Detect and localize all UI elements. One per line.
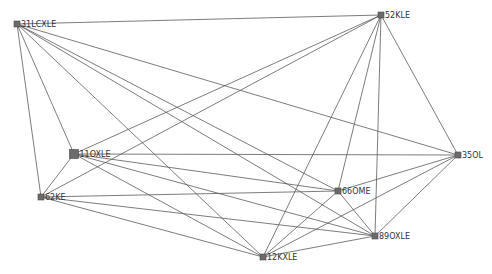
- edge-31LCXLE-12KXLE: [17, 24, 263, 257]
- edge-31LCXLE-89OXLE: [17, 24, 375, 236]
- node-square-icon[interactable]: [70, 150, 79, 159]
- edge-66OME-89OXLE: [338, 191, 375, 236]
- graph-node[interactable]: 89OXLE: [372, 232, 410, 241]
- edge-35OL-12KXLE: [263, 155, 458, 257]
- node-square-icon[interactable]: [38, 194, 44, 200]
- network-graph: 31LCXLE52KLE11OXLE62KE66OME35OL89OXLE12K…: [0, 0, 492, 274]
- edge-52KLE-12KXLE: [263, 15, 381, 257]
- edge-62KE-12KXLE: [41, 197, 263, 257]
- node-square-icon[interactable]: [260, 254, 266, 260]
- edge-11OXLE-66OME: [74, 154, 338, 191]
- graph-node[interactable]: 62KE: [38, 193, 65, 202]
- edge-52KLE-62KE: [41, 15, 381, 197]
- edge-52KLE-66OME: [338, 15, 381, 191]
- graph-node[interactable]: 12KXLE: [260, 253, 297, 262]
- edge-11OXLE-35OL: [74, 154, 458, 155]
- edge-31LCXLE-52KLE: [17, 15, 381, 24]
- edge-52KLE-35OL: [381, 15, 458, 155]
- edge-11OXLE-62KE: [41, 154, 74, 197]
- graph-node[interactable]: 35OL: [455, 151, 483, 160]
- node-label: 89OXLE: [379, 232, 410, 241]
- edge-31LCXLE-11OXLE: [17, 24, 74, 154]
- node-square-icon[interactable]: [335, 188, 341, 194]
- node-square-icon[interactable]: [378, 12, 384, 18]
- node-label: 66OME: [342, 187, 370, 196]
- edge-52KLE-89OXLE: [375, 15, 381, 236]
- node-square-icon[interactable]: [455, 152, 461, 158]
- node-layer: 31LCXLE52KLE11OXLE62KE66OME35OL89OXLE12K…: [14, 11, 483, 262]
- graph-node[interactable]: 31LCXLE: [14, 20, 56, 29]
- edge-31LCXLE-35OL: [17, 24, 458, 155]
- graph-node[interactable]: 66OME: [335, 187, 370, 196]
- edge-31LCXLE-62KE: [17, 24, 41, 197]
- edge-11OXLE-12KXLE: [74, 154, 263, 257]
- node-label: 12KXLE: [267, 253, 297, 262]
- graph-node[interactable]: 11OXLE: [70, 150, 111, 160]
- node-label: 52KLE: [385, 11, 410, 20]
- node-square-icon[interactable]: [372, 233, 378, 239]
- node-label: 31LCXLE: [21, 20, 56, 29]
- edge-11OXLE-89OXLE: [74, 154, 375, 236]
- node-label: 62KE: [45, 193, 65, 202]
- edge-layer: [17, 15, 458, 257]
- node-label: 11OXLE: [80, 150, 111, 159]
- node-label: 35OL: [462, 151, 483, 160]
- node-square-icon[interactable]: [14, 21, 20, 27]
